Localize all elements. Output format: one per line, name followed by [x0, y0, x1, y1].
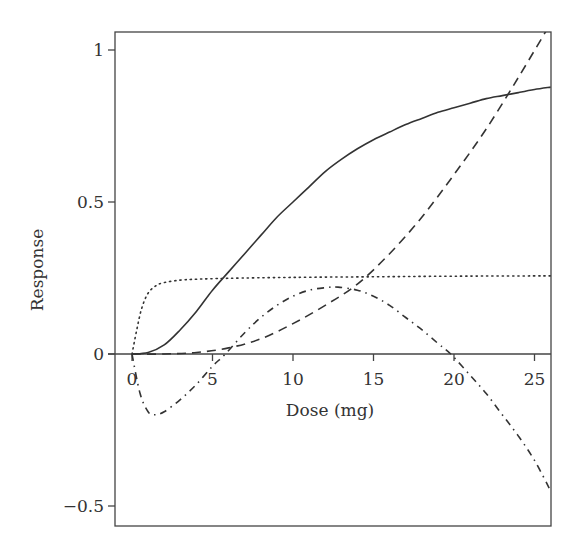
series-dash-dot-line [132, 287, 551, 491]
y-axis-ticks: 10.50−0.5 [63, 40, 115, 516]
x-tick-label: 0 [127, 369, 138, 389]
x-tick-label: 20 [443, 369, 465, 389]
y-tick-label: 1 [93, 40, 104, 60]
y-tick-label: −0.5 [63, 496, 104, 516]
series-solid-line [132, 87, 551, 354]
y-axis-label: Response [27, 229, 47, 311]
y-tick-label: 0 [93, 344, 104, 364]
x-tick-label: 25 [524, 369, 546, 389]
series-dashed-line [132, 29, 547, 354]
x-tick-label: 15 [363, 369, 385, 389]
x-tick-label: 5 [207, 369, 218, 389]
x-tick-label: 10 [282, 369, 304, 389]
x-axis-label: Dose (mg) [286, 400, 374, 420]
x-axis-ticks: 0510152025 [127, 354, 546, 389]
y-tick-label: 0.5 [77, 192, 104, 212]
plot-frame [115, 32, 551, 526]
chart-series [132, 29, 551, 491]
dose-response-chart: 10.50−0.5 0510152025 Dose (mg) Response [0, 0, 579, 542]
